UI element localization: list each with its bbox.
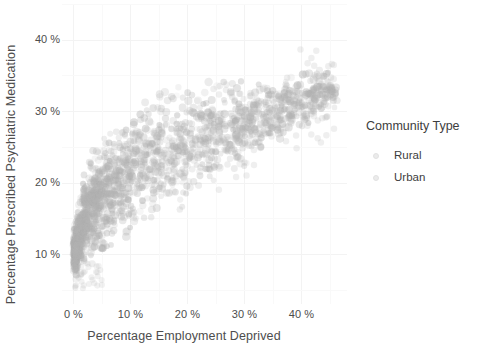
x-tick-label: 10 %: [110, 308, 150, 321]
plot-panel: [62, 4, 347, 304]
legend: Community Type RuralUrban: [366, 118, 482, 188]
x-axis-title: Percentage Employment Deprived: [58, 328, 310, 344]
legend-item-urban[interactable]: Urban: [366, 166, 482, 188]
legend-items: RuralUrban: [366, 144, 482, 188]
y-tick-label: 30 %: [14, 105, 60, 118]
x-tick-label: 20 %: [167, 308, 207, 321]
legend-key-circle-icon: [366, 167, 386, 187]
x-axis-tick-labels: 0 %10 %20 %30 %40 %: [0, 308, 360, 322]
scatter-plot-figure: Percentage Prescribed Psychiatric Medica…: [0, 0, 484, 349]
legend-item-label: Rural: [386, 147, 421, 163]
y-tick-label: 10 %: [14, 248, 60, 261]
y-axis-tick-labels: 10 %20 %30 %40 %: [14, 0, 60, 349]
x-tick-label: 40 %: [281, 308, 321, 321]
scatter-points-layer: [62, 4, 347, 304]
legend-item-label: Urban: [386, 169, 425, 185]
x-tick-label: 30 %: [224, 308, 264, 321]
y-tick-label: 20 %: [14, 176, 60, 189]
legend-item-rural[interactable]: Rural: [366, 144, 482, 166]
legend-title: Community Type: [366, 118, 482, 134]
x-tick-label: 0 %: [53, 308, 93, 321]
y-tick-label: 40 %: [14, 33, 60, 46]
legend-key-circle-icon: [366, 145, 386, 165]
